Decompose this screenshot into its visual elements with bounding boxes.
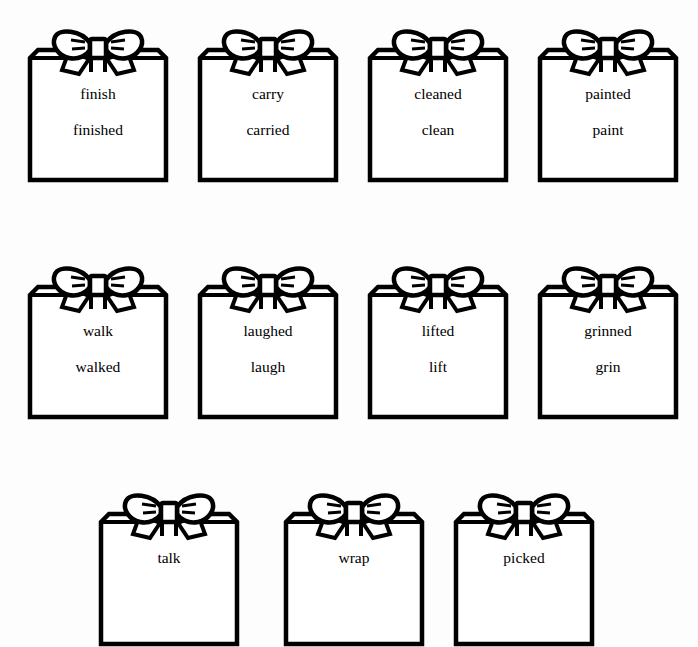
- word-top: laughed: [199, 323, 337, 339]
- word-bottom: clean: [369, 122, 507, 138]
- word-top: picked: [455, 550, 593, 566]
- word-bottom: paint: [539, 122, 677, 138]
- word-top: wrap: [285, 550, 423, 566]
- gift-box-word-pair: talk: [100, 550, 238, 586]
- word-bottom: grin: [539, 359, 677, 375]
- word-bottom: finished: [29, 122, 167, 138]
- gift-box-word-pair: walkwalked: [29, 323, 167, 374]
- gift-box-word-pair: cleanedclean: [369, 86, 507, 137]
- gift-box-word-pair: carrycarried: [199, 86, 337, 137]
- word-top: cleaned: [369, 86, 507, 102]
- word-top: painted: [539, 86, 677, 102]
- word-top: walk: [29, 323, 167, 339]
- gift-box-word-pair: grinnedgrin: [539, 323, 677, 374]
- word-bottom: carried: [199, 122, 337, 138]
- gift-box-word-pair: finishfinished: [29, 86, 167, 137]
- gift-box-word-pair: picked: [455, 550, 593, 586]
- gift-box-word-pair: wrap: [285, 550, 423, 586]
- word-top: grinned: [539, 323, 677, 339]
- gift-box-word-pair: laughedlaugh: [199, 323, 337, 374]
- gift-box-word-pair: liftedlift: [369, 323, 507, 374]
- word-bottom: walked: [29, 359, 167, 375]
- word-top: talk: [100, 550, 238, 566]
- word-top: lifted: [369, 323, 507, 339]
- word-bottom: lift: [369, 359, 507, 375]
- word-top: finish: [29, 86, 167, 102]
- gift-box-word-pair: paintedpaint: [539, 86, 677, 137]
- word-top: carry: [199, 86, 337, 102]
- word-bottom: laugh: [199, 359, 337, 375]
